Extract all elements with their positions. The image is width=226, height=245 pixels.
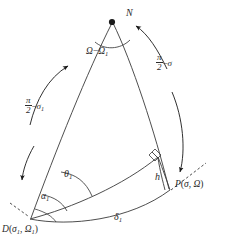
label-apex-angle: Ω−Ω1: [86, 47, 108, 57]
north-pole-dot: [109, 19, 115, 25]
alpha1-sub: 1: [46, 195, 49, 202]
label-north-pole: N: [126, 8, 133, 18]
P-close: ): [200, 179, 203, 189]
left-side-sigma-sub: 1: [41, 106, 44, 112]
label-point-D: D(σ1, Ω1): [2, 225, 38, 235]
apex-omega: Ω: [86, 46, 93, 56]
delta1-sub: 1: [119, 216, 122, 223]
label-left-side: π 2 −σ1: [25, 96, 44, 115]
right-side-sigma: σ: [168, 58, 172, 68]
spherical-triangle-figure: N Ω−Ω1 π 2 −σ π 2 −σ1 θ1 α1 h δ1 P(σ, Ω)…: [0, 0, 226, 245]
label-theta1: θ1: [64, 169, 72, 181]
altitude-h-top-join: [152, 152, 158, 158]
right-lower-arrow-icon: [172, 92, 183, 172]
arc-D-to-foot-inner: [30, 157, 158, 219]
arc-D-to-P-outer: [30, 190, 170, 222]
label-point-P: P(σ, Ω): [175, 180, 203, 190]
label-right-side: π 2 −σ: [156, 53, 172, 72]
label-altitude-h: h: [155, 172, 160, 182]
D-close: ): [35, 224, 38, 234]
apex-omega1-sub: 1: [105, 50, 108, 57]
label-alpha1: α1: [41, 192, 49, 202]
D-omega: Ω: [25, 224, 32, 234]
dashed-tangent-at-D: [10, 203, 28, 216]
left-lower-arrow-icon: [22, 146, 34, 180]
label-delta1: δ1: [114, 212, 122, 224]
D-letter: D: [2, 224, 9, 234]
theta1-sub: 1: [69, 173, 72, 180]
diagram-canvas: [0, 0, 226, 245]
